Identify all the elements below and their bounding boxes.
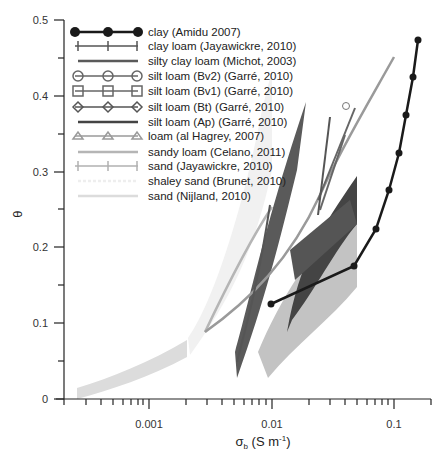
svg-text:0: 0 [42,393,48,405]
legend-label: sandy loam (Celano, 2011) [148,146,285,158]
legend-swatch-clay-amidu [70,27,143,37]
y-axis-title: θ [10,210,25,217]
legend-label: shaley sand (Brunet, 2010) [148,175,286,187]
legend-label: loam (al Hagrey, 2007) [148,130,264,142]
x-axis-title: σb (S m-1) [235,434,290,451]
svg-text:0.1: 0.1 [33,317,48,329]
legend-label: silt loam (Ap) (Garré, 2010) [148,116,287,128]
svg-text:0.3: 0.3 [33,166,48,178]
series-silt-loam-bv1-garre [318,108,355,200]
bv2-marker [343,103,350,110]
legend-label: clay (Amidu 2007) [148,26,241,38]
legend-label: silt loam (Bt) (Garré, 2010) [148,101,284,113]
legend-label: sand (Nijland, 2010) [148,190,251,202]
legend-label: silt loam (Bv1) (Garré, 2010) [148,85,293,97]
x-tick-labels: 0.001 0.01 0.1 [135,418,401,430]
x-axis [56,399,431,409]
legend-swatch-silt-loam-bv1 [73,86,142,96]
legend-swatch-sand-jayawickre [75,161,138,171]
y-axis [54,20,64,399]
svg-text:0.5: 0.5 [33,14,48,26]
legend-swatch-clay-loam-jayawickre [75,41,138,51]
series-sand-nijland [77,340,187,399]
svg-text:0.01: 0.01 [261,418,282,430]
svg-text:0.4: 0.4 [33,90,48,102]
svg-text:0.1: 0.1 [386,418,401,430]
legend-label: sand (Jayawickre, 2010) [148,160,273,172]
legend-label: clay loam (Jayawickre, 2010) [148,40,296,52]
legend-swatch-silt-loam-bv2 [73,71,142,81]
svg-text:0.2: 0.2 [33,241,48,253]
chart: 0 0.1 0.2 0.3 0.4 0.5 0.001 0.01 0.1 θ σ… [0,0,447,460]
legend-label: silt loam (Bv2) (Garré, 2010) [148,70,293,82]
legend-swatch-loam-alhagrey [73,132,142,139]
legend-swatch-silt-loam-bt [73,102,142,112]
svg-text:0.001: 0.001 [135,418,163,430]
legend-label: silty clay loam (Michot, 2003) [148,55,296,67]
y-tick-labels: 0 0.1 0.2 0.3 0.4 0.5 [33,14,48,405]
